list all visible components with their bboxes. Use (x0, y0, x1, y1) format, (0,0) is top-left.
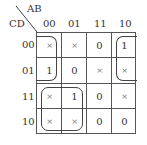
column-variable-label: AB (27, 4, 42, 14)
cell-cd01-ab11: × (87, 58, 112, 83)
col-header-10: 10 (119, 19, 132, 29)
col-header-11: 11 (94, 19, 107, 29)
cell-cd11-ab11: 0 (87, 84, 112, 109)
group-loop-bottom-quad (41, 87, 83, 131)
cell-cd11-ab10: × (112, 84, 137, 109)
group-loop-right-wrap (116, 36, 137, 81)
kmap-grid: × × 0 1 1 0 × × × 1 0 × × × 0 0 (36, 32, 136, 134)
karnaugh-map: AB CD 00 01 11 10 00 01 11 10 × × 0 1 1 … (0, 0, 147, 145)
cell-cd10-ab11: 0 (87, 109, 112, 134)
cell-cd00-ab01: × (62, 33, 87, 58)
col-header-00: 00 (43, 19, 56, 29)
col-header-01: 01 (68, 19, 81, 29)
row-header-11: 11 (22, 92, 35, 102)
cell-cd10-ab10: 0 (112, 109, 137, 134)
cell-cd01-ab01: 0 (62, 58, 87, 83)
row-header-00: 00 (22, 40, 35, 50)
cell-cd00-ab11: 0 (87, 33, 112, 58)
group-loop-left-wrap (36, 36, 57, 81)
row-header-10: 10 (22, 117, 35, 127)
row-variable-label: CD (9, 19, 25, 29)
row-header-01: 01 (22, 66, 35, 76)
